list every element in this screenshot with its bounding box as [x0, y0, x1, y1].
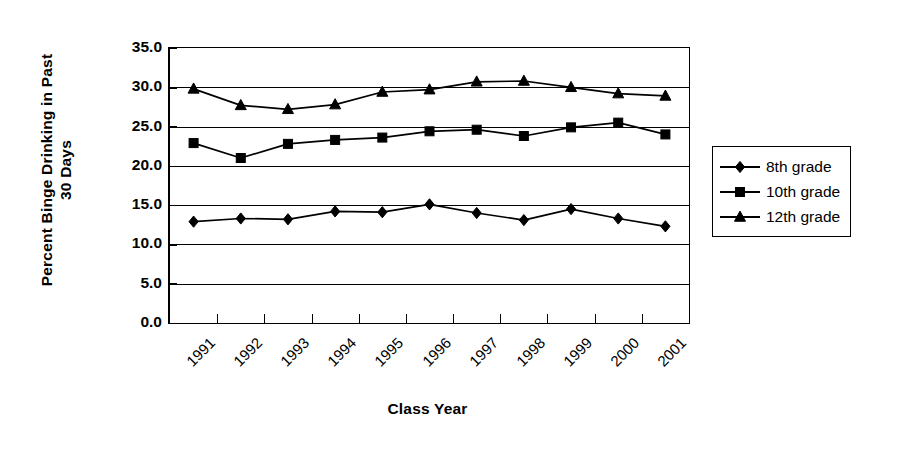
data-point-marker: [614, 118, 623, 127]
data-point-marker: [236, 154, 245, 163]
x-axis-tick-label: 1994: [324, 334, 360, 370]
data-point-marker: [378, 207, 387, 218]
x-axis-tick-label: 1997: [465, 334, 501, 370]
y-axis-tick-label: 0.0: [106, 314, 162, 330]
plot-area: [168, 47, 690, 324]
data-point-marker: [567, 123, 576, 132]
x-axis-tick-label: 2000: [607, 334, 643, 370]
y-axis-title-line-1: Percent Binge Drinking in Past: [37, 54, 56, 287]
square-marker-icon: [719, 183, 761, 201]
legend-item-8th-grade[interactable]: 8th grade: [719, 154, 840, 179]
data-point-marker: [614, 213, 623, 224]
data-point-marker: [331, 206, 340, 217]
y-axis-tick-label: 35.0: [106, 39, 162, 55]
data-point-marker: [519, 214, 528, 225]
legend-item-label: 8th grade: [766, 159, 832, 175]
data-point-marker: [425, 127, 434, 136]
y-axis-tick-label: 15.0: [106, 196, 162, 212]
triangle-marker-icon: [719, 208, 761, 226]
x-axis-tick-label: 1998: [513, 334, 549, 370]
legend-item-label: 10th grade: [766, 184, 840, 200]
y-axis-tick-label: 10.0: [106, 236, 162, 252]
y-axis-tick-labels: 35.030.025.020.015.010.05.00.0: [106, 0, 162, 460]
data-point-marker: [283, 214, 292, 225]
data-point-marker: [378, 133, 387, 142]
binge-drinking-line-chart: Percent Binge Drinking in Past 30 Days 3…: [0, 0, 900, 460]
x-axis-tick-label: 1992: [230, 334, 266, 370]
data-point-marker: [472, 125, 481, 134]
data-point-marker: [331, 135, 340, 144]
plot-svg: [170, 48, 689, 323]
x-axis-tick-label: 1993: [277, 334, 313, 370]
y-axis-title-line-2: 30 Days: [56, 54, 75, 287]
x-axis-tick-label: 2001: [654, 334, 690, 370]
data-point-marker: [189, 139, 198, 148]
x-axis-tick-label: 1995: [371, 334, 407, 370]
series-12th-grade: [188, 75, 671, 113]
y-axis-tick-label: 5.0: [106, 275, 162, 291]
legend-marker: [735, 161, 744, 172]
x-axis-title: Class Year: [168, 400, 687, 418]
x-axis-tick-label: 1999: [560, 334, 596, 370]
y-axis-tick-label: 30.0: [106, 79, 162, 95]
legend-item-10th-grade[interactable]: 10th grade: [719, 179, 840, 204]
data-point-marker: [283, 139, 292, 148]
data-point-marker: [425, 199, 434, 210]
x-axis-tick-label: 1991: [182, 334, 218, 370]
y-axis-tick-label: 25.0: [106, 118, 162, 134]
legend-item-12th-grade[interactable]: 12th grade: [719, 204, 840, 229]
data-point-marker: [661, 221, 670, 232]
data-point-marker: [236, 213, 245, 224]
legend-marker: [736, 187, 745, 196]
data-point-marker: [518, 75, 529, 85]
legend-item-label: 12th grade: [766, 209, 840, 225]
data-point-marker: [472, 207, 481, 218]
series-10th-grade: [189, 118, 670, 162]
chart-legend: 8th grade10th grade12th grade: [712, 146, 851, 237]
data-point-marker: [661, 130, 670, 139]
y-axis-tick-label: 20.0: [106, 157, 162, 173]
data-point-marker: [519, 132, 528, 141]
x-axis-tick-label: 1996: [418, 334, 454, 370]
series-8th-grade: [189, 199, 670, 232]
data-point-marker: [189, 216, 198, 227]
diamond-marker-icon: [719, 158, 761, 176]
y-axis-title: Percent Binge Drinking in Past 30 Days: [0, 0, 112, 340]
